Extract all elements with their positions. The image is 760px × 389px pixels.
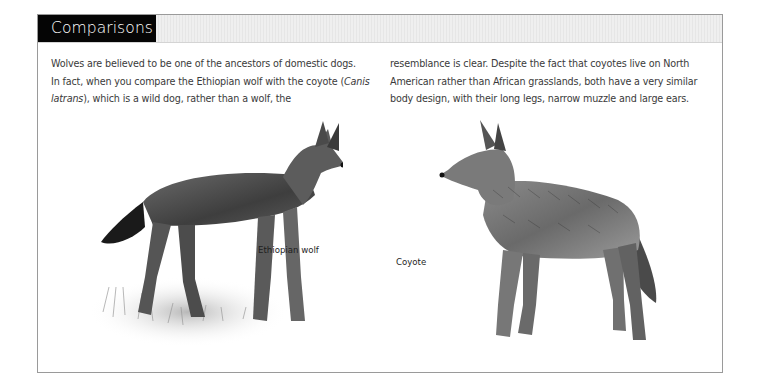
scientific-name-genus: Canis — [344, 76, 370, 87]
body-text-left-column: Wolves are believed to be one of the anc… — [51, 55, 370, 108]
ethiopian-wolf-caption: Ethiopian wolf — [258, 245, 319, 255]
body-line: resemblance is clear. Despite the fact t… — [390, 55, 697, 73]
body-line: body design, with their long legs, narro… — [390, 90, 697, 108]
comparisons-panel: Comparisons Wolves are believed to be on… — [37, 14, 723, 373]
body-line: American rather than African grasslands,… — [390, 73, 697, 91]
ethiopian-wolf-illustration-icon — [83, 107, 343, 357]
scientific-name-species: latrans — [51, 93, 83, 104]
body-line: In fact, when you compare the Ethiopian … — [51, 73, 370, 91]
body-line: Wolves are believed to be one of the anc… — [51, 55, 370, 73]
section-header-band: Comparisons — [38, 15, 722, 43]
section-title: Comparisons — [38, 15, 156, 42]
body-text-right-column: resemblance is clear. Despite the fact t… — [390, 55, 697, 108]
body-text-span: In fact, when you compare the Ethiopian … — [51, 76, 344, 87]
coyote-illustration-icon — [418, 115, 668, 355]
coyote-caption: Coyote — [396, 257, 426, 267]
body-line: latrans), which is a wild dog, rather th… — [51, 90, 370, 108]
body-text-span: ), which is a wild dog, rather than a wo… — [83, 93, 291, 104]
